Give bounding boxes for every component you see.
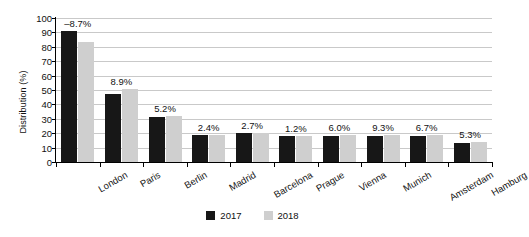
bar-2017-madrid	[192, 135, 208, 162]
y-tick-mark	[52, 76, 56, 77]
y-tick-mark	[52, 104, 56, 105]
x-tick-mark	[448, 162, 449, 167]
bar-2018-munich	[384, 135, 400, 162]
bar-2018-barcelona	[253, 133, 269, 162]
y-tick-mark	[52, 148, 56, 149]
x-tick-mark	[318, 162, 319, 167]
y-tick-label: 50	[41, 85, 52, 96]
x-tick-mark	[56, 162, 57, 167]
data-label: 2.7%	[241, 120, 263, 131]
bar-2018-vienna	[340, 135, 356, 162]
bar-2017-paris	[105, 94, 121, 162]
bar-2017-london	[61, 31, 77, 162]
category-label-madrid: Madrid	[226, 169, 257, 193]
y-tick-label: 90	[41, 27, 52, 38]
y-tick-label: 60	[41, 70, 52, 81]
gridline	[56, 32, 492, 33]
legend: 20172018	[0, 210, 505, 221]
data-label: 6.0%	[329, 122, 351, 133]
x-tick-mark	[492, 162, 493, 167]
y-tick-label: 100	[36, 13, 52, 24]
bar-2018-prague	[296, 136, 312, 162]
data-label: 9.3%	[372, 122, 394, 133]
x-tick-mark	[274, 162, 275, 167]
x-tick-mark	[100, 162, 101, 167]
gridline	[56, 61, 492, 62]
y-tick-mark	[52, 18, 56, 19]
bar-2017-vienna	[323, 136, 339, 162]
x-tick-mark	[405, 162, 406, 167]
y-tick-label: 70	[41, 56, 52, 67]
legend-label: 2018	[278, 210, 299, 221]
y-tick-label: 20	[41, 128, 52, 139]
data-label: –8.7%	[64, 18, 91, 29]
x-tick-mark	[230, 162, 231, 167]
y-axis-title: Distribution (%)	[18, 32, 28, 172]
y-tick-mark	[52, 133, 56, 134]
bar-2017-hamburg	[454, 143, 470, 162]
y-tick-mark	[52, 32, 56, 33]
legend-label: 2017	[220, 210, 241, 221]
bar-2017-berlin	[149, 117, 165, 162]
y-tick-label: 40	[41, 99, 52, 110]
x-tick-mark	[361, 162, 362, 167]
category-label-paris: Paris	[138, 169, 162, 189]
bar-2018-berlin	[166, 116, 182, 162]
bar-2018-london	[78, 42, 94, 162]
plot-area: 0102030405060708090100 –8.7%8.9%5.2%2.4%…	[56, 18, 492, 162]
bar-2018-amsterdam	[427, 135, 443, 162]
category-label-vienna: Vienna	[357, 169, 388, 193]
category-label-berlin: Berlin	[182, 169, 209, 191]
bar-2018-madrid	[209, 135, 225, 162]
y-tick-label: 10	[41, 142, 52, 153]
bar-2018-paris	[122, 89, 138, 162]
y-tick-label: 30	[41, 113, 52, 124]
legend-swatch-icon	[206, 211, 215, 220]
data-label: 5.2%	[154, 103, 176, 114]
y-tick-label: 0	[47, 157, 52, 168]
legend-item-2018[interactable]: 2018	[264, 210, 299, 221]
legend-item-2017[interactable]: 2017	[206, 210, 241, 221]
category-label-hamburg: Hamburg	[489, 169, 528, 198]
bar-2017-munich	[367, 136, 383, 162]
data-label: 2.4%	[198, 122, 220, 133]
y-tick-mark	[52, 90, 56, 91]
y-tick-mark	[52, 61, 56, 62]
category-label-munich: Munich	[401, 169, 433, 194]
bar-2018-hamburg	[471, 142, 487, 162]
data-label: 6.7%	[416, 122, 438, 133]
data-label: 8.9%	[111, 76, 133, 87]
category-label-barcelona: Barcelona	[272, 169, 315, 200]
category-label-amsterdam: Amsterdam	[447, 169, 495, 203]
category-label-prague: Prague	[314, 169, 346, 194]
x-tick-mark	[143, 162, 144, 167]
gridline	[56, 47, 492, 48]
bar-2017-amsterdam	[410, 136, 426, 162]
data-label: 1.2%	[285, 123, 307, 134]
bar-2017-barcelona	[236, 133, 252, 162]
y-tick-mark	[52, 47, 56, 48]
data-label: 5.3%	[459, 129, 481, 140]
y-tick-mark	[52, 119, 56, 120]
y-tick-label: 80	[41, 41, 52, 52]
category-label-london: London	[96, 169, 129, 194]
gridline	[56, 18, 492, 19]
x-tick-mark	[187, 162, 188, 167]
bar-2017-prague	[279, 136, 295, 162]
legend-swatch-icon	[264, 211, 273, 220]
